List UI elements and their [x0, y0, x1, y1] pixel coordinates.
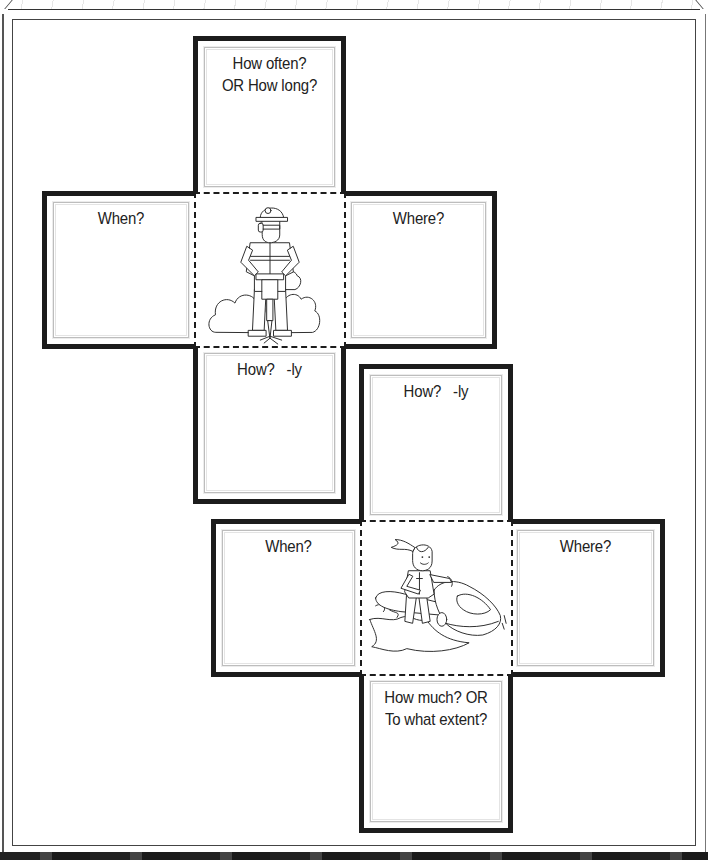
wood-texture-header-strip — [8, 0, 700, 10]
worksheet-frame — [12, 19, 696, 846]
cube1-panel-left[interactable]: When? — [42, 191, 195, 349]
panel-prompt: How much? OR To what extent? — [364, 687, 508, 731]
cube2-panel-right[interactable]: Where? — [511, 519, 665, 677]
panel-prompt: Where? — [345, 208, 492, 230]
cube2-panel-left[interactable]: When? — [211, 519, 361, 677]
cube1-panel-bottom[interactable]: How? -ly — [193, 347, 346, 504]
cube2-panel-center — [360, 520, 513, 676]
page-border-left — [2, 14, 4, 852]
girl-on-jet-ski-icon — [362, 522, 511, 674]
footer-strip — [0, 852, 708, 860]
cube2-panel-bottom[interactable]: How much? OR To what extent? — [359, 675, 513, 833]
cube1-panel-top[interactable]: How often? OR How long? — [193, 36, 346, 193]
panel-prompt: How? -ly — [364, 381, 508, 403]
construction-worker-jackhammer-icon — [196, 194, 344, 346]
panel-prompt: How? -ly — [198, 359, 341, 381]
cube1-panel-right[interactable]: Where? — [345, 191, 497, 349]
cube1-panel-center — [194, 192, 346, 348]
panel-prompt: How often? OR How long? — [198, 53, 341, 97]
panel-prompt: When? — [216, 536, 361, 558]
panel-prompt: When? — [47, 208, 195, 230]
panel-prompt: Where? — [511, 536, 660, 558]
page-border-right — [705, 14, 707, 852]
cube2-panel-top[interactable]: How? -ly — [359, 364, 513, 521]
